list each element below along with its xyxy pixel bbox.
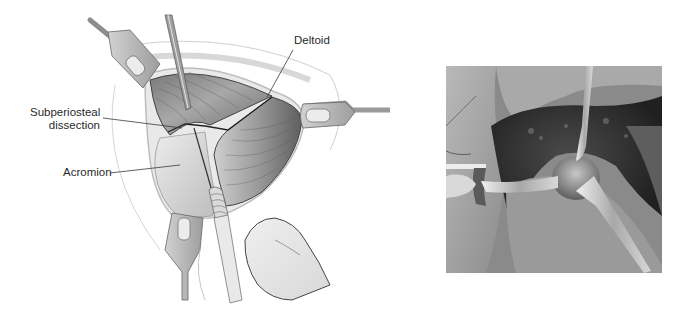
intraoperative-photo [446, 66, 662, 273]
label-subperiosteal-dissection: Subperiosteal dissection [30, 106, 100, 132]
photo-image [446, 66, 662, 273]
surgical-figure: Deltoid Subperiosteal dissection Acromio… [0, 0, 698, 323]
label-acromion: Acromion [63, 166, 112, 179]
label-subperiosteal-line1: Subperiosteal [30, 106, 100, 119]
retractor-top-left [90, 20, 160, 88]
retractor-bottom [165, 213, 203, 300]
surgical-illustration: Deltoid Subperiosteal dissection Acromio… [0, 0, 420, 323]
label-deltoid: Deltoid [294, 34, 330, 47]
label-subperiosteal-line2: dissection [30, 119, 100, 132]
retractor-right [301, 102, 391, 128]
illustration-drawing [0, 0, 420, 323]
